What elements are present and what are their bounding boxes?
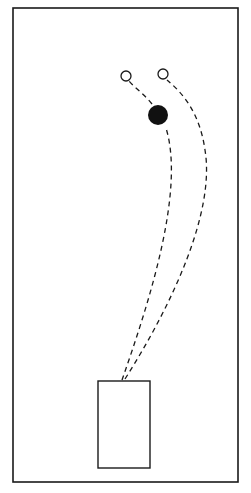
dashed-trajectory-1 [122,81,171,380]
filled-circle-marker [148,105,168,125]
trajectory-diagram [0,0,251,493]
start-box [98,381,150,468]
open-circle-marker-2 [158,69,168,79]
open-circle-marker-1 [121,71,131,81]
